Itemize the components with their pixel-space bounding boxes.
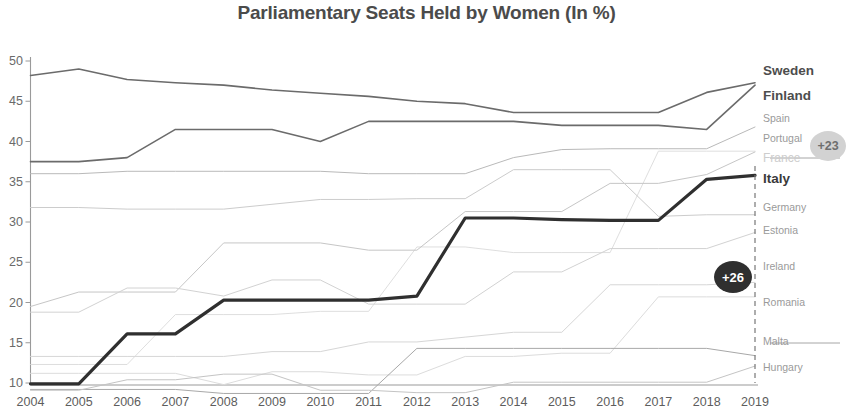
y-tick-label: 45: [1, 94, 23, 108]
series-label-portugal: Portugal: [763, 133, 802, 144]
series-label-romania: Romania: [763, 297, 805, 308]
y-tick-label: 20: [1, 296, 23, 310]
annotation-badge-france-delta: +23: [810, 131, 846, 161]
series-label-france: France: [763, 152, 800, 164]
series-label-germany: Germany: [763, 202, 806, 213]
series-label-finland: Finland: [763, 89, 811, 103]
series-label-sweden: Sweden: [763, 64, 814, 78]
series-line-hungary: [31, 366, 756, 393]
x-tick-label: 2015: [539, 395, 585, 409]
series-line-portugal: [31, 152, 756, 307]
chart-plot-area: [0, 0, 853, 418]
series-label-estonia: Estonia: [763, 225, 798, 236]
series-label-ireland: Ireland: [763, 261, 795, 272]
y-tick-label: 50: [1, 54, 23, 68]
x-tick-label: 2006: [104, 395, 150, 409]
series-label-hungary: Hungary: [763, 362, 803, 373]
x-tick-label: 2013: [442, 395, 488, 409]
y-tick-label: 10: [1, 376, 23, 390]
x-tick-label: 2005: [56, 395, 102, 409]
series-line-sweden: [31, 69, 756, 112]
y-tick-label: 30: [1, 215, 23, 229]
series-layer: [31, 69, 756, 393]
x-tick-label: 2004: [8, 395, 54, 409]
x-tick-label: 2010: [297, 395, 343, 409]
series-line-estonia: [31, 232, 756, 312]
annotation-badge-italy-delta: +26: [714, 261, 752, 293]
series-label-malta: Malta: [763, 336, 789, 347]
x-tick-label: 2007: [152, 395, 198, 409]
series-line-ireland: [31, 282, 756, 356]
x-tick-label: 2012: [394, 395, 440, 409]
y-tick-label: 25: [1, 255, 23, 269]
x-tick-label: 2019: [732, 395, 778, 409]
series-line-finland: [31, 85, 756, 161]
x-tick-label: 2008: [201, 395, 247, 409]
y-tick-label: 35: [1, 175, 23, 189]
x-tick-label: 2018: [684, 395, 730, 409]
series-label-italy: Italy: [763, 172, 790, 186]
x-tick-label: 2017: [635, 395, 681, 409]
series-line-malta: [31, 348, 756, 393]
x-tick-label: 2009: [249, 395, 295, 409]
x-tick-label: 2014: [491, 395, 537, 409]
y-tick-label: 40: [1, 135, 23, 149]
y-tick-label: 15: [1, 336, 23, 350]
chart-root: Parliamentary Seats Held by Women (In %)…: [0, 0, 853, 418]
series-label-spain: Spain: [763, 113, 790, 124]
x-tick-label: 2016: [587, 395, 633, 409]
x-tick-label: 2011: [346, 395, 392, 409]
